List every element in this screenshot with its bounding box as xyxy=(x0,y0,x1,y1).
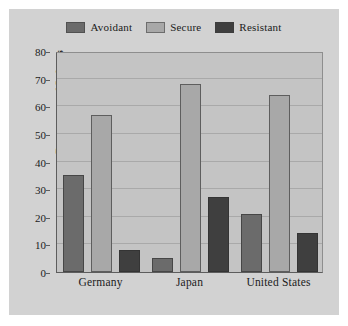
y-axis-tick-labels: 01020304050607080 xyxy=(0,45,50,277)
y-tickmark xyxy=(46,273,50,274)
x-axis-tick-labels: GermanyJapanUnited States xyxy=(56,276,323,296)
y-tickmark xyxy=(46,218,50,219)
y-tick-label: 20 xyxy=(35,212,46,224)
legend-label: Secure xyxy=(170,21,201,33)
x-tick-label: Germany xyxy=(78,276,122,288)
bar-group xyxy=(235,53,324,272)
y-tickmark xyxy=(46,190,50,191)
y-tickmark xyxy=(46,107,50,108)
legend-item-avoidant[interactable]: Avoidant xyxy=(66,21,132,33)
legend-swatch-icon xyxy=(146,22,165,33)
y-tick-label: 50 xyxy=(35,129,46,141)
legend-swatch-icon xyxy=(215,22,234,33)
bars-layer xyxy=(57,53,322,272)
bar-germany-avoidant[interactable] xyxy=(63,175,84,272)
legend-item-secure[interactable]: Secure xyxy=(146,21,201,33)
bar-united-states-avoidant[interactable] xyxy=(241,214,262,272)
y-tick-label: 80 xyxy=(35,46,46,58)
legend-label: Resistant xyxy=(239,21,281,33)
y-tickmark xyxy=(46,163,50,164)
y-tick-label: 10 xyxy=(35,239,46,251)
bar-japan-resistant[interactable] xyxy=(208,197,229,272)
bar-united-states-resistant[interactable] xyxy=(297,233,318,272)
bar-group xyxy=(146,53,235,272)
bar-germany-resistant[interactable] xyxy=(119,250,140,272)
y-tick-label: 70 xyxy=(35,74,46,86)
y-tick-label: 40 xyxy=(35,157,46,169)
y-tick-label: 30 xyxy=(35,184,46,196)
bar-japan-secure[interactable] xyxy=(180,84,201,272)
x-tick-label: United States xyxy=(246,276,310,288)
bar-united-states-secure[interactable] xyxy=(269,95,290,272)
y-tickmark xyxy=(46,52,50,53)
y-tickmark xyxy=(46,135,50,136)
y-tickmark xyxy=(46,80,50,81)
plot-area xyxy=(56,52,323,273)
legend-item-resistant[interactable]: Resistant xyxy=(215,21,281,33)
chart-figure: AvoidantSecureResistant Percentage of In… xyxy=(0,0,348,326)
bar-japan-avoidant[interactable] xyxy=(152,258,173,272)
bar-germany-secure[interactable] xyxy=(91,115,112,272)
legend-swatch-icon xyxy=(66,22,85,33)
x-tick-label: Japan xyxy=(176,276,203,288)
y-tick-label: 60 xyxy=(35,101,46,113)
bar-group xyxy=(57,53,146,272)
legend-label: Avoidant xyxy=(90,21,132,33)
y-tickmark xyxy=(46,245,50,246)
